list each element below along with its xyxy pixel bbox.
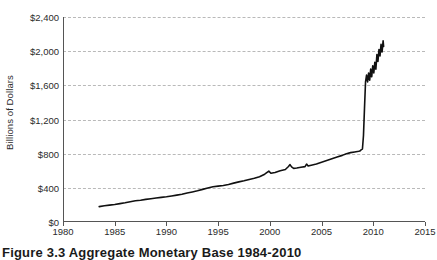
x-tick-label-2000: 2000 — [259, 226, 280, 237]
x-tick-label-1985: 1985 — [104, 226, 125, 237]
x-tick-label-2010: 2010 — [363, 226, 384, 237]
x-tick-label-1990: 1990 — [156, 226, 177, 237]
y-axis-title: Billions of Dollars — [0, 0, 18, 225]
figure-caption: Figure 3.3 Aggregate Monetary Base 1984-… — [2, 245, 435, 260]
x-tick-label-1995: 1995 — [208, 226, 229, 237]
x-tick-label-1980: 1980 — [52, 226, 73, 237]
series-line-monetary-base — [63, 17, 425, 222]
y-axis-title-label: Billions of Dollars — [4, 75, 15, 150]
series-path — [99, 41, 383, 207]
y-tick-label-2400: $2,400 — [30, 12, 59, 23]
y-axis-tick-labels: $0$400$800$1,200$1,600$2,000$2,400 — [18, 0, 61, 225]
y-tick-label-400: $400 — [38, 182, 59, 193]
y-tick-label-800: $800 — [38, 148, 59, 159]
y-tick-label-1200: $1,200 — [30, 114, 59, 125]
y-tick-label-2000: $2,000 — [30, 46, 59, 57]
x-tick-label-2015: 2015 — [414, 226, 435, 237]
x-axis-tick-labels: 19801985199019952000200520102015 — [63, 226, 425, 240]
x-tick-label-2005: 2005 — [311, 226, 332, 237]
y-tick-label-1600: $1,600 — [30, 80, 59, 91]
plot-area — [63, 17, 425, 222]
